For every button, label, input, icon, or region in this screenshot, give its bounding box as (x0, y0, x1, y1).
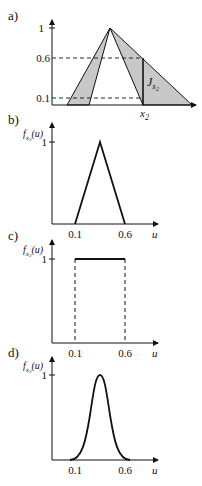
right-shaded-band (110, 28, 192, 105)
left-shaded-band (67, 28, 110, 105)
triangular-membership-curve (75, 142, 125, 224)
y-tick-1: 1 (42, 369, 48, 381)
y-tick-1: 1 (39, 22, 45, 34)
gaussian-membership-curve (70, 375, 130, 460)
panel-c: c) fx2(u) 1 0.1 0.6 u (8, 228, 158, 359)
x-tick-0-6: 0.6 (118, 347, 132, 359)
panel-d-label: d) (8, 345, 19, 360)
x-axis-label: u (152, 464, 158, 476)
x2-marker: x2 (139, 107, 149, 122)
panel-b: b) fx2(u) 1 0.1 0.6 u (8, 112, 158, 240)
diagram-canvas: a) 1 0.6 0.1 x2 Jx2 b) fx2(u) 1 0.1 0.6 … (0, 0, 202, 486)
y-tick-1: 1 (42, 253, 48, 265)
y-tick-1: 1 (42, 136, 48, 148)
x-tick-0-1: 0.1 (68, 347, 82, 359)
panel-a: a) 1 0.6 0.1 x2 Jx2 (8, 8, 196, 122)
x-axis-label: u (152, 347, 158, 359)
x-tick-0-1: 0.1 (68, 464, 82, 476)
x-tick-0-6: 0.6 (118, 464, 132, 476)
panel-b-label: b) (8, 112, 19, 127)
panel-c-label: c) (8, 228, 18, 243)
panel-a-label: a) (8, 8, 18, 23)
y-tick-0-6: 0.6 (36, 52, 50, 64)
x-tick-0-6: 0.6 (118, 228, 132, 240)
panel-d: d) fx2(u) 1 0.1 0.6 u (8, 345, 158, 476)
x-tick-0-1: 0.1 (68, 228, 82, 240)
x-axis-label: u (152, 228, 158, 240)
y-tick-0-1: 0.1 (36, 92, 50, 104)
